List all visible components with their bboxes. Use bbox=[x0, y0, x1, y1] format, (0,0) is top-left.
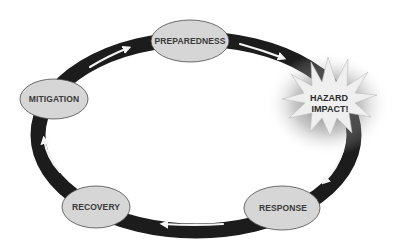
response-node: RESPONSE bbox=[244, 186, 320, 230]
preparedness-label: PREPAREDNESS bbox=[155, 36, 226, 46]
mitigation-label: MITIGATION bbox=[29, 94, 79, 104]
preparedness-node: PREPAREDNESS bbox=[151, 20, 229, 62]
arrow-response-to-recovery bbox=[163, 224, 223, 225]
hazard-label-line2: IMPACT! bbox=[312, 104, 349, 114]
recovery-label: RECOVERY bbox=[72, 202, 120, 212]
hazard-label-line1: HAZARD bbox=[310, 93, 348, 103]
disaster-cycle-diagram: HAZARD IMPACT! PREPAREDNESS MITIGATION R… bbox=[0, 0, 395, 247]
response-label: RESPONSE bbox=[259, 203, 307, 213]
recovery-node: RECOVERY bbox=[62, 186, 130, 228]
hazard-impact-node: HAZARD IMPACT! bbox=[266, 52, 390, 156]
mitigation-node: MITIGATION bbox=[20, 79, 88, 119]
